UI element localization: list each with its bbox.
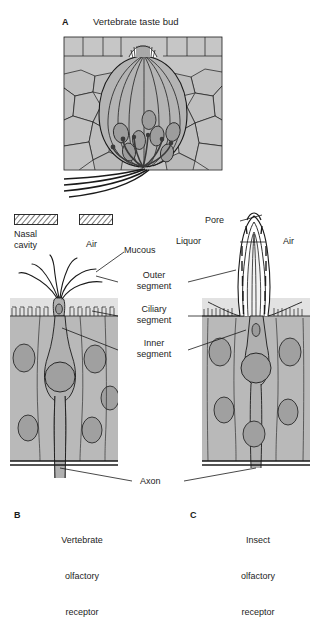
panel-c-title-line2: olfactory (208, 570, 308, 582)
panel-a-title: Vertebrate taste bud (93, 17, 179, 28)
label-ciliary-segment: Ciliary segment (120, 304, 188, 325)
label-outer-segment: Outer segment (120, 270, 188, 291)
legend-swatch-nasal-cavity (14, 214, 58, 225)
label-inner-segment: Inner segment (120, 338, 188, 359)
panel-c-title: Insect olfactory receptor (208, 510, 308, 621)
label-air-right: Air (283, 236, 294, 247)
panel-a-letter: A (62, 17, 69, 27)
label-pore: Pore (205, 215, 224, 226)
panel-b-title-line3: receptor (32, 606, 132, 618)
panel-b-title: Vertebrate olfactory receptor (32, 510, 132, 621)
panel-b-letter: B (14, 510, 21, 520)
panel-a-illustration (63, 36, 223, 198)
panel-b-title-line1: Vertebrate (32, 534, 132, 546)
panel-b-title-line2: olfactory (32, 570, 132, 582)
label-mucous: Mucous (124, 245, 156, 256)
panel-b-illustration (10, 246, 118, 486)
label-axon: Axon (140, 476, 161, 487)
label-liquor: Liquor (176, 236, 201, 247)
panel-c-title-line1: Insect (208, 534, 308, 546)
panel-c-title-line3: receptor (208, 606, 308, 618)
legend-swatch-air (79, 214, 113, 225)
panel-c-illustration (202, 206, 310, 486)
panel-c-letter: C (190, 510, 197, 520)
